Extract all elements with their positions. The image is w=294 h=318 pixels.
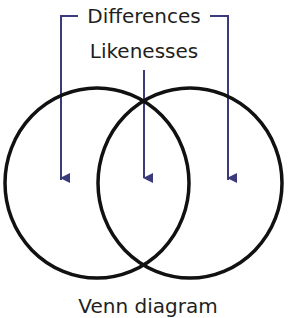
likenesses-label: Likenesses <box>90 39 198 63</box>
differences-bracket-right <box>210 16 228 180</box>
differences-label: Differences <box>87 4 201 28</box>
caption: Venn diagram <box>78 294 217 318</box>
differences-bracket-left <box>61 16 78 180</box>
